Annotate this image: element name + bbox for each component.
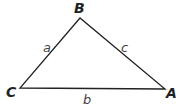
vertex-label-c: C	[6, 84, 17, 100]
triangle-abc	[20, 18, 165, 89]
side-label-a: a	[43, 40, 51, 55]
side-label-b: b	[83, 92, 91, 107]
triangle-diagram: B C A a c b	[0, 0, 183, 109]
vertex-label-a: A	[165, 85, 177, 101]
vertex-label-b: B	[74, 0, 85, 16]
side-label-c: c	[121, 40, 128, 55]
